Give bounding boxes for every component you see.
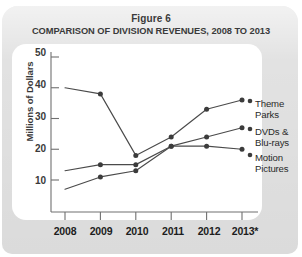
y-axis-ticks [51, 57, 59, 180]
legend-item-motion-pictures-line2: Pictures [255, 163, 288, 174]
page-title: COMPARISON OF DIVISION REVENUES, 2008 TO… [0, 25, 302, 38]
data-point-theme-parks-2010 [133, 168, 138, 173]
data-point-dvds-blu-rays-2010 [133, 162, 138, 167]
legend-item-dvds-blurays-line2: Blu-rays [255, 137, 289, 148]
data-point-motion-pictures-2013 [240, 98, 245, 103]
data-point-theme-parks-2013 [240, 147, 245, 152]
figure-title-block: Figure 6 COMPARISON OF DIVISION REVENUES… [0, 12, 302, 38]
x-axis-ticks [65, 212, 242, 220]
data-point-theme-parks-2012 [204, 144, 209, 149]
y-tick-label-30: 30 [22, 111, 46, 122]
y-tick-label-20: 20 [22, 143, 46, 154]
legend-item-theme-parks-line2: Parks [255, 109, 279, 120]
chart-axes [51, 52, 258, 220]
legend-marker-motion-pictures [248, 153, 253, 158]
data-point-motion-pictures-2011 [169, 134, 174, 139]
series-line-theme-parks [65, 146, 242, 189]
x-tick-label-2010: 2010 [117, 225, 157, 237]
data-point-dvds-blu-rays-2012 [204, 134, 209, 139]
data-point-theme-parks-2011 [169, 144, 174, 149]
x-tick-label-2012: 2012 [189, 225, 229, 237]
legend-item-dvds-blurays-line1: DVDs & [255, 126, 288, 137]
data-point-motion-pictures-2010 [133, 153, 138, 158]
y-tick-label-50: 50 [22, 47, 46, 58]
data-point-motion-pictures-2012 [204, 107, 209, 112]
x-tick-label-2009: 2009 [81, 225, 121, 237]
legend-item-theme-parks-line1: Theme [255, 98, 284, 109]
data-point-theme-parks-2009 [98, 174, 103, 179]
legend-marker-dvds-blu-rays [248, 127, 253, 132]
data-point-dvds-blu-rays-2013 [240, 125, 245, 130]
data-point-motion-pictures-2009 [98, 91, 103, 96]
y-axis-title: Millions of Dollars [24, 57, 35, 147]
series-line-dvds-blu-rays [65, 128, 242, 171]
figure-container: Figure 6 COMPARISON OF DIVISION REVENUES… [0, 0, 302, 257]
x-tick-label-2011: 2011 [153, 225, 193, 237]
series-line-motion-pictures [65, 88, 242, 156]
legend-marker-theme-parks [248, 99, 253, 104]
x-tick-label-2008: 2008 [45, 225, 85, 237]
x-tick-label-2013: 2013* [225, 225, 265, 237]
legend-item-motion-pictures-line1: Motion [255, 152, 283, 163]
data-point-dvds-blu-rays-2009 [98, 162, 103, 167]
legend-leader-lines [248, 99, 253, 158]
y-tick-label-10: 10 [22, 175, 46, 186]
figure-number: Figure 6 [0, 12, 302, 25]
chart-series-group [65, 88, 245, 189]
y-tick-label-40: 40 [22, 79, 46, 90]
